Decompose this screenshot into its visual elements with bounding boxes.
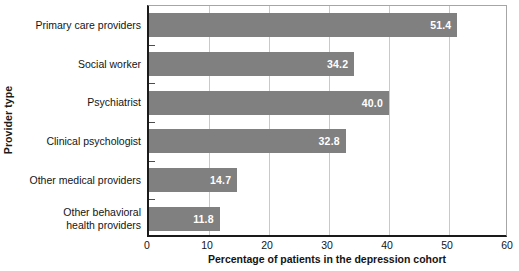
- gridline: [269, 6, 270, 235]
- x-axis-title: Percentage of patients in the depression…: [147, 253, 507, 265]
- y-axis-tick: [149, 122, 155, 123]
- bar: 11.8: [149, 207, 220, 231]
- y-axis-tick: [149, 199, 155, 200]
- gridline: [449, 6, 450, 235]
- gridline: [209, 6, 210, 235]
- bar-value-label: 32.8: [319, 135, 340, 147]
- bar-value-label: 40.0: [362, 97, 383, 109]
- bar: 14.7: [149, 168, 237, 192]
- y-axis-tick: [149, 45, 155, 46]
- bar-value-label: 11.8: [193, 213, 214, 225]
- category-label: Other medical providers: [30, 174, 141, 187]
- category-label: Other behavioral health providers: [63, 206, 141, 231]
- category-label: Clinical psychologist: [46, 135, 141, 148]
- y-axis-title-text: Provider type: [2, 86, 14, 154]
- x-axis: 0102030405060: [147, 237, 507, 253]
- bar-value-label: 34.2: [327, 58, 348, 70]
- y-axis-tick: [149, 83, 155, 84]
- x-axis-tick-label: 20: [261, 239, 273, 251]
- bar-value-label: 14.7: [210, 174, 231, 186]
- bar: 32.8: [149, 129, 346, 153]
- x-axis-tick-label: 50: [441, 239, 453, 251]
- x-axis-tick-label: 40: [381, 239, 393, 251]
- y-axis-tick: [149, 161, 155, 162]
- x-axis-tick-label: 60: [501, 239, 513, 251]
- y-axis-category-labels: Primary care providersSocial workerPsych…: [16, 5, 144, 237]
- bar-value-label: 51.4: [430, 19, 451, 31]
- category-label: Primary care providers: [35, 19, 141, 32]
- bar: 34.2: [149, 52, 354, 76]
- bar-chart: Provider type Primary care providersSoci…: [0, 0, 519, 271]
- x-axis-tick-label: 30: [321, 239, 333, 251]
- category-label: Psychiatrist: [87, 96, 141, 109]
- bar: 51.4: [149, 13, 457, 37]
- y-axis-title: Provider type: [0, 0, 16, 240]
- x-axis-tick-label: 0: [144, 239, 150, 251]
- plot-area: 51.434.240.032.814.711.8: [147, 5, 507, 237]
- gridline: [389, 6, 390, 235]
- gridline: [329, 6, 330, 235]
- x-axis-tick-label: 10: [201, 239, 213, 251]
- category-label: Social worker: [78, 58, 141, 71]
- bar: 40.0: [149, 91, 389, 115]
